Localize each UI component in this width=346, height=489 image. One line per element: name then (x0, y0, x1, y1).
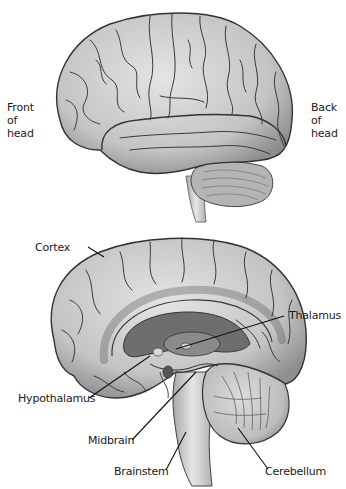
thalamus-label: Thalamus (289, 309, 341, 322)
cortex-label: Cortex (35, 241, 70, 254)
midbrain-label: Midbrain (88, 434, 134, 447)
lateral-cerebellum (191, 162, 273, 207)
hypothalamus-label: Hypothalamus (18, 392, 95, 405)
brain-diagram: Front of head Back of head Cortex Thalam… (0, 0, 346, 489)
brainstem-label: Brainstem (114, 465, 169, 478)
back-of-head-label: Back of head (311, 101, 338, 140)
cerebellum-label: Cerebellum (265, 465, 326, 478)
front-of-head-label: Front of head (7, 101, 34, 140)
